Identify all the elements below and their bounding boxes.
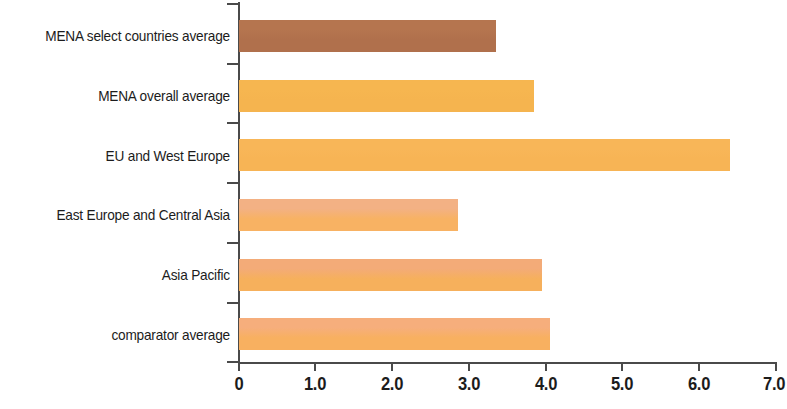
y-axis-tick xyxy=(227,182,238,184)
bar[interactable] xyxy=(239,199,458,231)
x-axis-tick-label: 6.0 xyxy=(688,374,710,395)
x-axis-tick-label: 5.0 xyxy=(611,374,633,395)
bar-fill xyxy=(239,20,496,52)
y-axis-tick xyxy=(227,302,238,304)
x-axis-line xyxy=(238,362,776,364)
bar-chart: MENA select countries average MENA overa… xyxy=(0,0,787,409)
x-axis-tick xyxy=(621,362,623,371)
category-label: EU and West Europe xyxy=(14,148,230,164)
x-axis-tick xyxy=(698,362,700,371)
bar[interactable] xyxy=(239,80,534,112)
bar-fill xyxy=(239,139,730,171)
category-label: Asia Pacific xyxy=(14,267,230,283)
bar-fill xyxy=(239,318,550,350)
x-axis-tick-label: 2.0 xyxy=(381,374,403,395)
x-axis-tick xyxy=(468,362,470,371)
bar-fill xyxy=(239,199,458,231)
category-label: MENA overall average xyxy=(14,88,230,104)
category-axis-labels: MENA select countries average MENA overa… xyxy=(0,0,230,362)
y-axis-tick xyxy=(227,242,238,244)
x-axis-tick-label: 0 xyxy=(235,374,244,395)
y-axis-line xyxy=(238,2,240,362)
bar[interactable] xyxy=(239,139,730,171)
x-axis-tick-label: 1.0 xyxy=(304,374,326,395)
bar[interactable] xyxy=(239,259,542,291)
plot-area xyxy=(238,0,787,362)
x-axis-tick-label: 3.0 xyxy=(458,374,480,395)
y-axis-tick xyxy=(227,3,238,5)
bar[interactable] xyxy=(239,318,550,350)
bar[interactable] xyxy=(239,20,496,52)
x-axis-tick xyxy=(391,362,393,371)
y-axis-tick xyxy=(227,361,238,363)
x-axis-tick xyxy=(238,362,240,371)
bar-fill xyxy=(239,259,542,291)
x-axis-tick-label: 4.0 xyxy=(535,374,557,395)
category-label: comparator average xyxy=(14,327,230,343)
y-axis-tick xyxy=(227,122,238,124)
category-label: MENA select countries average xyxy=(14,28,230,44)
x-axis-tick xyxy=(775,362,777,371)
bar-fill xyxy=(239,80,534,112)
x-axis-tick-label: 7.0 xyxy=(763,374,785,395)
x-axis-tick xyxy=(314,362,316,371)
category-label: East Europe and Central Asia xyxy=(14,207,230,223)
y-axis-tick xyxy=(227,63,238,65)
x-axis-tick xyxy=(545,362,547,371)
